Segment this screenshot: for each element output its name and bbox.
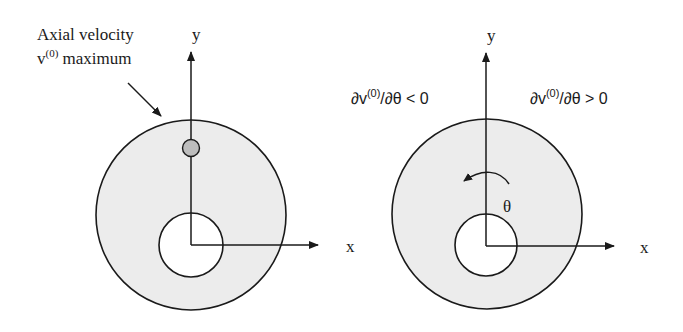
annotation-line-2: v(0) maximum [37,47,132,68]
x-axis-label: x [640,238,649,257]
theta-label: θ [503,197,511,216]
x-axis-label: x [346,237,355,256]
pointer-arrow [128,83,161,116]
velocity-maximum-marker [183,140,200,157]
y-axis-label: y [487,26,496,45]
y-axis-label: y [192,25,201,44]
right-panel: θ ∂v(0)/∂θ < 0 ∂v(0)/∂θ > 0 y x [351,26,649,309]
diagram-canvas: Axial velocity v(0) maximum y x θ ∂v(0)/… [0,0,683,332]
left-panel: Axial velocity v(0) maximum y x [37,25,355,310]
annotation-line-1: Axial velocity [37,25,134,44]
negative-derivative-label: ∂v(0)/∂θ < 0 [351,87,429,107]
positive-derivative-label: ∂v(0)/∂θ > 0 [530,87,608,107]
